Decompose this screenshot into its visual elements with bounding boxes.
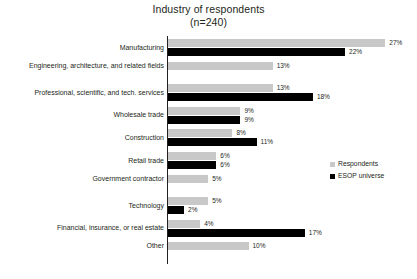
- legend-item-respondents: Respondents: [330, 160, 384, 168]
- bar-value-label: 9%: [244, 107, 253, 115]
- bar-group: Other10%: [0, 242, 417, 250]
- chart-legend: Respondents ESOP universe: [330, 160, 384, 184]
- category-label: Construction: [125, 134, 164, 142]
- bar-value-label: 27%: [389, 39, 402, 47]
- bar-group: Financial, insurance, or real estate4%17…: [0, 220, 417, 237]
- category-label: Financial, insurance, or real estate: [57, 224, 164, 232]
- bar-fill: [168, 206, 184, 214]
- chart-subtitle: (n=240): [0, 16, 417, 28]
- bar-value-label: 13%: [277, 62, 290, 70]
- legend-label-respondents: Respondents: [338, 160, 378, 168]
- bar-group: Manufacturing27%22%: [0, 39, 417, 56]
- bar-resp: [168, 107, 240, 115]
- legend-swatch-esop-universe-icon: [330, 174, 335, 179]
- bar-value-label: 5%: [212, 197, 221, 205]
- bar-fill: [168, 229, 305, 237]
- industry-of-respondents-chart: Industry of respondents (n=240) Manufact…: [0, 0, 417, 279]
- bar-fill: [168, 39, 385, 47]
- bar-value-label: 22%: [349, 48, 362, 56]
- bar-esop: [168, 93, 313, 101]
- bar-value-label: 8%: [236, 129, 245, 137]
- bar-resp: [168, 152, 216, 160]
- bar-fill: [168, 93, 313, 101]
- bar-group: Professional, scientific, and tech. serv…: [0, 84, 417, 101]
- bar-fill: [168, 197, 208, 205]
- bar-value-label: 18%: [317, 93, 330, 101]
- bar-value-label: 9%: [244, 116, 253, 124]
- bar-fill: [168, 129, 232, 137]
- bar-value-label: 6%: [220, 152, 229, 160]
- bar-value-label: 10%: [253, 242, 266, 250]
- bar-value-label: 4%: [204, 220, 213, 228]
- bar-resp: [168, 62, 273, 70]
- bar-group: Construction8%11%: [0, 129, 417, 146]
- plot-area: Manufacturing27%22%Engineering, architec…: [0, 36, 417, 268]
- chart-title: Industry of respondents: [0, 3, 417, 16]
- category-label: Engineering, architecture, and related f…: [29, 62, 164, 70]
- bar-value-label: 13%: [277, 84, 290, 92]
- bar-value-label: 5%: [212, 175, 221, 183]
- legend-swatch-respondents-icon: [330, 162, 335, 167]
- bar-resp: [168, 84, 273, 92]
- bar-resp: [168, 197, 208, 205]
- bar-esop: [168, 206, 184, 214]
- category-label: Retail trade: [128, 157, 164, 165]
- bar-resp: [168, 175, 208, 183]
- chart-title-block: Industry of respondents (n=240): [0, 3, 417, 28]
- category-label: Technology: [129, 202, 164, 210]
- bar-esop: [168, 116, 240, 124]
- bar-group: Technology5%2%: [0, 197, 417, 214]
- bar-esop: [168, 161, 216, 169]
- bar-fill: [168, 62, 273, 70]
- legend-item-esop-universe: ESOP universe: [330, 172, 384, 180]
- bar-resp: [168, 129, 232, 137]
- bar-fill: [168, 48, 345, 56]
- category-label: Other: [146, 242, 164, 250]
- legend-label-esop-universe: ESOP universe: [338, 172, 384, 180]
- bar-group: Wholesale trade9%9%: [0, 107, 417, 124]
- bar-fill: [168, 152, 216, 160]
- bar-resp: [168, 39, 385, 47]
- bar-esop: [168, 138, 257, 146]
- category-label: Professional, scientific, and tech. serv…: [34, 89, 164, 97]
- bar-fill: [168, 138, 257, 146]
- category-label: Manufacturing: [120, 44, 164, 52]
- bar-value-label: 2%: [188, 206, 197, 214]
- bar-esop: [168, 48, 345, 56]
- bar-fill: [168, 84, 273, 92]
- bar-value-label: 11%: [261, 138, 274, 146]
- bar-fill: [168, 107, 240, 115]
- bar-fill: [168, 116, 240, 124]
- category-label: Wholesale trade: [113, 111, 164, 119]
- bar-esop: [168, 229, 305, 237]
- bar-fill: [168, 175, 208, 183]
- bar-group: Engineering, architecture, and related f…: [0, 62, 417, 70]
- bar-fill: [168, 220, 200, 228]
- bar-fill: [168, 161, 216, 169]
- bar-value-label: 17%: [309, 229, 322, 237]
- category-label: Government contractor: [92, 175, 164, 183]
- bar-resp: [168, 242, 249, 250]
- bar-value-label: 6%: [220, 161, 229, 169]
- bar-fill: [168, 242, 249, 250]
- bar-resp: [168, 220, 200, 228]
